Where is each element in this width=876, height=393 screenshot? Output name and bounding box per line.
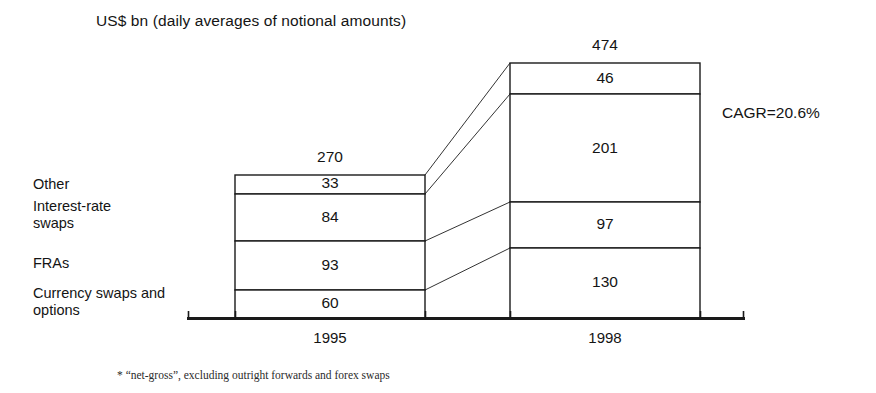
bar-1998-value-interest-rate-swaps: 201 <box>510 139 700 157</box>
bar-1995-value-other: 33 <box>235 174 425 192</box>
bar-1998-value-other: 46 <box>510 69 700 87</box>
bar-1995-value-interest-rate-swaps: 84 <box>235 208 425 226</box>
x-axis-label-1998: 1998 <box>510 329 700 346</box>
chart-footnote: * “net-gross”, excluding outright forwar… <box>117 369 390 381</box>
category-label-other: Other <box>33 176 69 193</box>
bar-1995-value-fras: 93 <box>235 256 425 274</box>
stacked-bar-chart: US$ bn (daily averages of notional amoun… <box>0 0 876 393</box>
bar-1998-total-label: 474 <box>510 36 700 54</box>
cagr-annotation: CAGR=20.6% <box>722 104 820 122</box>
bar-1995-value-currency-swaps-options: 60 <box>235 294 425 312</box>
category-label-interest-rate-swaps: Interest-rate swaps <box>33 198 111 232</box>
category-label-fras: FRAs <box>33 255 69 272</box>
bar-1998-value-fras: 97 <box>510 215 700 233</box>
bar-1998-value-currency-swaps-options: 130 <box>510 273 700 291</box>
chart-drawing-layer <box>0 0 876 393</box>
connector-lines <box>425 63 510 290</box>
category-label-currency-swaps-options: Currency swaps and options <box>33 285 165 319</box>
bar-1995-total-label: 270 <box>235 148 425 166</box>
x-axis-label-1995: 1995 <box>235 329 425 346</box>
